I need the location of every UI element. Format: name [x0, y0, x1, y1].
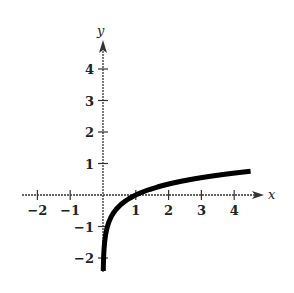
x-tick-label: 3: [197, 203, 206, 218]
x-axis-label: x: [268, 187, 276, 202]
x-tick-label: −2: [27, 203, 47, 218]
axes: [22, 40, 264, 272]
chart: −2−11234−2−11234 x y: [0, 0, 294, 293]
x-tick-label: 4: [230, 203, 239, 218]
y-tick-label: −2: [74, 251, 94, 266]
y-tick-label: 2: [85, 125, 94, 140]
y-tick-label: −1: [74, 220, 94, 235]
y-tick-label: 3: [85, 94, 94, 109]
x-tick-label: 1: [131, 203, 140, 218]
ticks: −2−11234−2−11234: [27, 62, 238, 266]
y-axis-label: y: [96, 23, 105, 38]
x-tick-label: 2: [164, 203, 173, 218]
x-tick-label: −1: [60, 203, 80, 218]
y-tick-label: 1: [85, 157, 94, 172]
y-tick-label: 4: [85, 62, 94, 77]
log-curve: [103, 171, 250, 271]
